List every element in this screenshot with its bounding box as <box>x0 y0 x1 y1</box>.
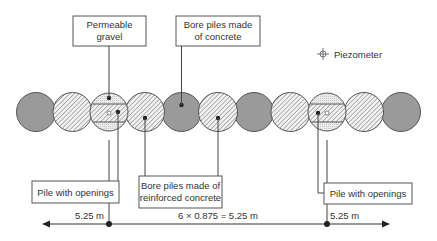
callout-pile-with-openings-left: Pile with openings <box>32 181 119 203</box>
dimension-middle-label: 6 × 0.875 = 5.25 m <box>178 210 258 221</box>
callout-bore-piles-concrete: Bore piles made of concrete <box>176 16 260 46</box>
callout-pile-with-openings-right: Pile with openings <box>324 183 412 204</box>
dimension-line: 5.25 m 6 × 0.875 = 5.25 m 5.25 m <box>42 210 390 228</box>
callout-text-line2: gravel <box>97 31 123 42</box>
callout-text-line1: Bore piles made <box>184 19 253 30</box>
callout-text: Pile with openings <box>330 188 407 199</box>
pile-with-openings-3 <box>88 93 130 131</box>
pile-concrete-7 <box>235 93 274 132</box>
callout-bore-piles-reinforced: Bore piles made of reinforced concrete <box>139 176 222 208</box>
dimension-node-left <box>106 221 112 227</box>
legend-label: Piezometer <box>334 49 382 60</box>
dimension-node-right <box>324 221 330 227</box>
pile-reinforced-8 <box>271 93 310 132</box>
opening-marker-hollow <box>325 111 329 115</box>
dimension-right-label: 5.25 m <box>330 210 359 221</box>
pile-reinforced-10 <box>345 93 384 132</box>
legend-piezometer: Piezometer <box>317 48 382 60</box>
callout-text: Pile with openings <box>37 187 114 198</box>
pile-concrete-1 <box>17 93 56 132</box>
callout-text-line2: of concrete <box>195 31 242 42</box>
arrow-left-icon <box>42 221 50 228</box>
secant-pile-wall-diagram: Permeable gravel Bore piles made of conc… <box>0 0 437 241</box>
callout-text-line1: Permeable <box>87 19 133 30</box>
callout-text-line2: reinforced concrete <box>140 192 221 203</box>
callout-text-line1: Bore piles made of <box>141 180 221 191</box>
opening-marker-hollow <box>107 111 111 115</box>
pile-reinforced-2 <box>53 93 92 132</box>
callout-permeable-gravel: Permeable gravel <box>73 16 146 46</box>
pile-concrete-11 <box>382 93 421 132</box>
pile-with-openings-9 <box>306 93 348 131</box>
dimension-left-label: 5.25 m <box>75 210 104 221</box>
piezometer-crosshair-icon <box>317 48 329 60</box>
arrow-right-icon <box>382 221 390 228</box>
